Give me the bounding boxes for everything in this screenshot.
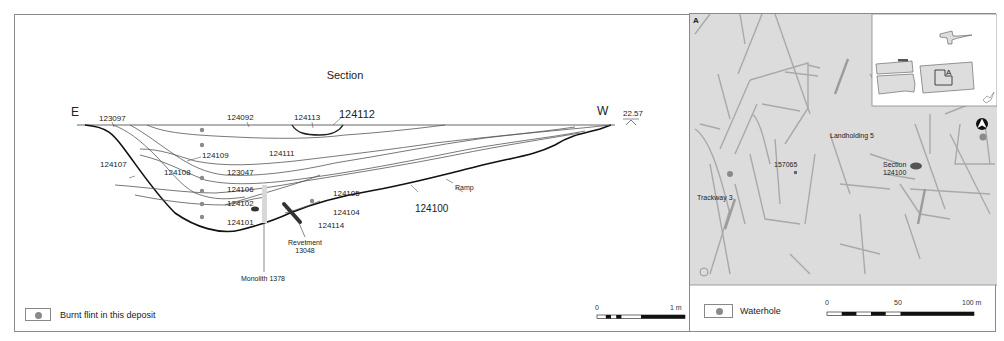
context-123097: 123097 <box>99 114 126 123</box>
layer-line-124106 <box>115 133 580 193</box>
landholding-label: Landholding 5 <box>830 132 874 140</box>
burnt-flint-dot <box>200 143 204 147</box>
section-title: Section <box>327 69 364 81</box>
datum-marker-icon <box>626 120 636 125</box>
waterhole-legend-dot <box>716 308 723 315</box>
context-124092: 124092 <box>227 113 254 122</box>
inset-area-letter: A <box>946 68 952 77</box>
map-scale-mid: 50 <box>894 299 902 306</box>
revetment-leader <box>299 223 305 237</box>
waterhole-marker <box>727 171 733 177</box>
context-124112: 124112 <box>339 108 375 120</box>
burnt-flint-dot <box>200 189 204 193</box>
leader-tick <box>247 122 249 127</box>
east-label: E <box>71 105 79 119</box>
feature-157065-label: 157065 <box>774 161 797 168</box>
inset-mark <box>898 59 908 62</box>
leader-tick <box>129 176 135 178</box>
monolith-label: Monolith 1378 <box>241 275 285 282</box>
inset-parcel <box>877 74 915 94</box>
burnt-flint-dot <box>200 202 204 206</box>
section-map-label: Section <box>883 161 906 168</box>
waterhole-marker <box>980 134 987 141</box>
context-124113: 124113 <box>294 113 321 122</box>
revetment-label: Revetment <box>288 239 322 246</box>
burnt-flint-legend-label: Burnt flint in this deposit <box>60 310 156 320</box>
waterhole-legend-label: Waterhole <box>740 306 781 316</box>
map-scale-end: 100 m <box>962 299 981 306</box>
west-label: W <box>597 104 609 118</box>
context-124107: 124107 <box>100 160 127 169</box>
burnt-flint-dot <box>200 128 204 132</box>
datum-level: 22.57 <box>623 109 644 118</box>
burnt-flint-dot <box>200 215 204 219</box>
context-124108: 124108 <box>164 168 191 177</box>
context-124111: 124111 <box>269 149 295 158</box>
context-124106: 124106 <box>227 185 254 194</box>
section-drawing: Section E W <box>15 15 691 333</box>
map-scale-start: 0 <box>825 299 829 306</box>
context-124102: 124102 <box>227 199 254 208</box>
section-scale-start: 0 <box>595 304 599 311</box>
leader-tick <box>446 179 453 183</box>
map-scale-bar <box>827 312 974 316</box>
burnt-flint-dot <box>310 199 314 203</box>
feature-157065-marker <box>794 171 797 174</box>
context-123047: 123047 <box>227 168 254 177</box>
trackway-label: Trackway 3 <box>697 194 733 202</box>
burnt-flint-dot <box>200 176 204 180</box>
waterhole-legend-swatch <box>704 304 733 318</box>
burnt-flint-legend-dot <box>35 312 42 319</box>
context-124104: 124104 <box>333 208 360 217</box>
monolith-sample <box>262 185 267 223</box>
section-panel: Section E W <box>14 14 690 332</box>
ramp-label: Ramp <box>455 184 474 192</box>
leader-tick <box>411 185 418 192</box>
north-arrow-icon <box>976 118 988 130</box>
revetment-number: 13048 <box>295 247 315 254</box>
context-124105: 124105 <box>333 189 360 198</box>
site-map: A Landholding 5 157065 Section 124100 Tr… <box>690 14 997 333</box>
section-scale-end: 1 m <box>670 304 682 311</box>
context-124109: 124109 <box>202 151 229 160</box>
location-inset-map: A <box>872 14 997 106</box>
cut-124112-outline <box>292 125 343 135</box>
context-124100: 124100 <box>415 203 449 214</box>
section-scale-bar <box>597 315 685 319</box>
map-panel-letter: A <box>693 16 699 25</box>
layer-line-124092 <box>147 125 445 138</box>
context-124101: 124101 <box>227 218 254 227</box>
section-map-number: 124100 <box>883 169 906 176</box>
section-location-marker <box>910 163 922 170</box>
context-124114: 124114 <box>318 221 345 230</box>
burnt-flint-legend-swatch <box>25 308 51 321</box>
site-map-panel: A Landholding 5 157065 Section 124100 Tr… <box>689 13 996 332</box>
